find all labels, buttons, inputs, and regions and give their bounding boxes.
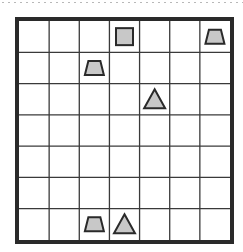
dotted-separator bbox=[0, 1, 243, 4]
triangle-icon bbox=[114, 214, 135, 233]
puzzle-grid bbox=[15, 17, 234, 244]
triangle-icon bbox=[144, 89, 165, 108]
trapezoid-icon bbox=[85, 217, 104, 231]
grid-lines bbox=[19, 21, 230, 240]
square-icon bbox=[116, 28, 133, 45]
trapezoid-icon bbox=[205, 30, 224, 44]
trapezoid-icon bbox=[85, 61, 104, 75]
